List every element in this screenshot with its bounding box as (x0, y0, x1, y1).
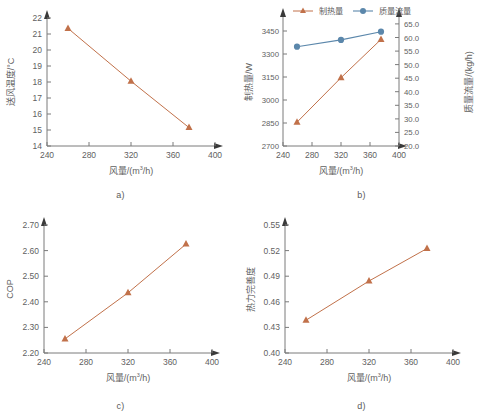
y-tick-label: 0.46 (263, 297, 280, 307)
y-axis-title-right: 质量流量/(kg/h) (463, 51, 474, 113)
subplot-d-svg: 0.40 0.43 0.46 0.49 0.52 0.55 240 280 32… (241, 205, 482, 419)
y-tick-label: 2.70 (22, 220, 39, 230)
y-axis-title: 热力完善度 (245, 267, 256, 312)
triangle-marker (62, 335, 69, 342)
x-tick-label: 280 (305, 150, 319, 160)
y-tick-label-right: 45.0 (404, 74, 420, 83)
y-axis-title: 送风温度/°C (5, 57, 16, 106)
x-tick-label: 320 (362, 357, 376, 367)
series-thermodynamic-perfection (303, 245, 431, 323)
axis-lines-d (282, 217, 461, 356)
subplot-a-svg: 14 15 16 17 18 19 20 21 22 240 280 320 (0, 0, 241, 210)
y-tick-label: 2.30 (22, 322, 39, 332)
y-tick-label: 0.49 (263, 271, 280, 281)
circle-marker (378, 29, 384, 35)
y-tick-label: 2.60 (22, 246, 39, 256)
x-axis-title: 风量/(m3/h) (109, 165, 154, 176)
legend-label-heating-capacity: 制热量 (319, 6, 343, 16)
x-tick-label: 280 (82, 150, 96, 160)
series-heating-capacity (294, 35, 385, 124)
series-mass-flow-rate (294, 29, 384, 50)
triangle-marker (65, 24, 72, 31)
circle-marker (338, 37, 344, 43)
x-axis-title-main: 风量 (109, 166, 127, 176)
y-tick-label: 0.55 (263, 220, 280, 230)
figure-container: 14 15 16 17 18 19 20 21 22 240 280 320 (0, 0, 482, 419)
y-tick-label: 19 (33, 61, 43, 71)
x-axis-title-unit-pre: /(m (124, 373, 137, 383)
x-ticks-d: 240 280 320 360 400 (278, 349, 460, 367)
y-axis-title: COP (5, 279, 15, 299)
triangle-marker (303, 316, 310, 323)
y-tick-label: 0.43 (263, 322, 280, 332)
triangle-marker (424, 245, 431, 252)
series-cop (62, 240, 190, 341)
triangle-marker (186, 124, 193, 131)
y-tick-label-right: 30.0 (404, 115, 420, 124)
y-tick-label: 0.52 (263, 246, 280, 256)
subplot-a-caption: a) (0, 190, 241, 200)
subplot-d: 0.40 0.43 0.46 0.49 0.52 0.55 240 280 32… (241, 205, 482, 419)
triangle-marker (366, 277, 373, 284)
circle-marker (294, 44, 300, 50)
subplot-c: 2.20 2.30 2.40 2.50 2.60 2.70 240 280 32… (0, 205, 241, 419)
x-axis-title-unit-post: /h) (140, 373, 151, 383)
subplot-c-caption: c) (0, 401, 241, 411)
y-tick-label-right: 40.0 (404, 88, 420, 97)
legend-label-mass-flow-rate: 质量流量 (379, 6, 411, 16)
y-tick-label-right: 20.0 (404, 142, 420, 151)
subplot-d-caption: d) (241, 401, 482, 411)
x-axis-title-unit-pre: /(m (127, 166, 140, 176)
triangle-marker (300, 8, 306, 14)
x-tick-label: 400 (208, 150, 222, 160)
triangle-marker (183, 240, 190, 247)
x-tick-label: 360 (163, 357, 177, 367)
x-tick-label: 360 (166, 150, 180, 160)
x-tick-label: 360 (404, 357, 418, 367)
subplot-b-svg: 2700 2850 3000 3150 3300 3450 20.0 (241, 0, 482, 210)
x-axis-title-main: 风量 (319, 166, 337, 176)
x-axis-title-unit-post: /h) (143, 166, 154, 176)
svg-text:风量/(m3/h): 风量/(m3/h) (319, 165, 364, 176)
subplot-a: 14 15 16 17 18 19 20 21 22 240 280 320 (0, 0, 241, 210)
y-tick-label-right: 35.0 (404, 101, 420, 110)
triangle-marker (125, 289, 132, 296)
y-axis-title-left: 制热量/W (243, 62, 254, 101)
y-tick-label-right: 65.0 (404, 20, 420, 29)
subplot-b-caption: b) (241, 190, 482, 200)
y-tick-label-right: 50.0 (404, 61, 420, 70)
x-axis-title: 风量/(m3/h) (347, 372, 392, 383)
x-tick-label: 240 (37, 357, 51, 367)
svg-text:风量/(m3/h): 风量/(m3/h) (347, 372, 392, 383)
y-tick-label: 20 (33, 45, 43, 55)
x-axis-title-main: 风量 (347, 373, 365, 383)
axis-lines-c (41, 217, 220, 356)
circle-marker (360, 8, 366, 14)
x-tick-label: 240 (278, 357, 292, 367)
x-tick-label: 400 (205, 357, 219, 367)
x-tick-label: 240 (276, 150, 290, 160)
y-tick-label-right: 25.0 (404, 128, 420, 137)
y-ticks-a: 14 15 16 17 18 19 20 21 22 (33, 13, 51, 151)
x-tick-label: 320 (124, 150, 138, 160)
x-tick-label: 320 (334, 150, 348, 160)
x-ticks-c: 240 280 320 360 400 (37, 349, 219, 367)
y-tick-label: 16 (33, 109, 43, 119)
x-tick-label: 400 (446, 357, 460, 367)
x-tick-label: 400 (392, 150, 406, 160)
svg-text:风量/(m3/h): 风量/(m3/h) (106, 372, 151, 383)
y-tick-label-left: 2850 (262, 119, 280, 128)
y-tick-label: 22 (33, 13, 43, 23)
svg-text:风量/(m3/h): 风量/(m3/h) (109, 165, 154, 176)
y-tick-label: 2.40 (22, 297, 39, 307)
x-tick-label: 280 (320, 357, 334, 367)
triangle-marker (378, 35, 385, 42)
x-axis-title-main: 风量 (106, 373, 124, 383)
y-tick-label: 2.50 (22, 271, 39, 281)
legend-b: 制热量 质量流量 (293, 6, 411, 16)
y-tick-label-left: 3150 (262, 73, 280, 82)
subplot-c-svg: 2.20 2.30 2.40 2.50 2.60 2.70 240 280 32… (0, 205, 241, 419)
y-tick-label-right: 60.0 (404, 34, 420, 43)
x-tick-label: 240 (40, 150, 54, 160)
x-axis-title: 风量/(m3/h) (319, 165, 364, 176)
